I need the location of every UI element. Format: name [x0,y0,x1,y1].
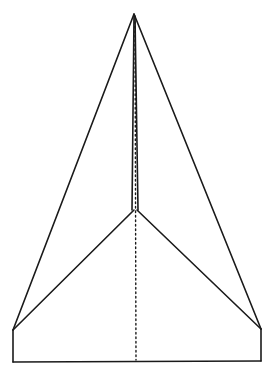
spine-left-line [132,16,134,210]
right-outer-edge [134,14,261,329]
left-outer-edge [13,14,134,330]
airplane-svg [0,0,273,375]
paper-airplane-drawing: paper airplane line drawing [0,0,273,375]
center-fold-dotted [135,22,136,360]
left-wing-fold [13,210,134,330]
right-wing-fold [137,210,261,329]
bottom-edge [13,361,261,362]
